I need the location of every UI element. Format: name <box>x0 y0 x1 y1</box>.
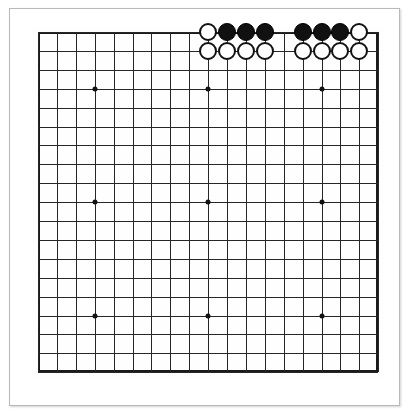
grid-line-vertical-M <box>246 32 247 372</box>
grid-line-vertical-O <box>284 32 285 372</box>
grid-line-vertical-S <box>359 32 360 372</box>
grid-line-horizontal-2 <box>38 353 378 354</box>
star-point-D4 <box>93 314 98 319</box>
star-point-Q10 <box>320 200 325 205</box>
grid-line-horizontal-8 <box>38 240 378 241</box>
star-point-D10 <box>93 200 98 205</box>
grid-line-vertical-R <box>340 32 341 372</box>
star-point-K16 <box>206 87 211 92</box>
grid-line-horizontal-9 <box>38 221 378 222</box>
grid-line-vertical-P <box>303 32 304 372</box>
star-point-K10 <box>206 200 211 205</box>
star-point-Q4 <box>320 314 325 319</box>
grid-line-vertical-N <box>265 32 266 372</box>
paper-frame <box>9 8 400 406</box>
grid-line-horizontal-1 <box>38 372 378 373</box>
grid-line-horizontal-6 <box>38 278 378 279</box>
grid-line-vertical-L <box>227 32 228 372</box>
grid-line-horizontal-3 <box>38 334 378 335</box>
star-point-D16 <box>93 87 98 92</box>
star-point-Q16 <box>320 87 325 92</box>
go-diagram-root <box>0 0 413 420</box>
grid-line-horizontal-7 <box>38 259 378 260</box>
star-point-K4 <box>206 314 211 319</box>
go-board-surface[interactable] <box>32 26 384 378</box>
grid-line-vertical-T <box>378 32 379 372</box>
grid-line-horizontal-5 <box>38 297 378 298</box>
